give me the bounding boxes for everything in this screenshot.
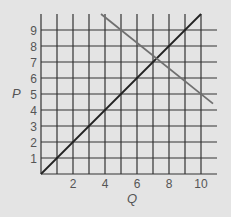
y-tick-labels: 123456789: [30, 24, 37, 166]
y-tick-label: 4: [30, 104, 37, 118]
y-tick-label: 5: [30, 88, 37, 102]
x-tick-label: 10: [194, 177, 208, 191]
x-tick-label: 8: [166, 177, 173, 191]
x-tick-label: 6: [134, 177, 141, 191]
supply-demand-chart: 123456789 246810 P Q: [0, 0, 231, 217]
grid-lines: [41, 14, 217, 174]
y-tick-label: 3: [30, 120, 37, 134]
x-tick-labels: 246810: [70, 177, 208, 191]
y-tick-label: 9: [30, 24, 37, 38]
y-tick-label: 8: [30, 40, 37, 54]
x-tick-label: 4: [102, 177, 109, 191]
y-tick-label: 2: [30, 136, 37, 150]
y-axis-label: P: [12, 86, 21, 101]
x-axis-label: Q: [127, 191, 137, 206]
y-tick-label: 6: [30, 72, 37, 86]
x-tick-label: 2: [70, 177, 77, 191]
y-tick-label: 1: [30, 152, 37, 166]
demand-line: [101, 14, 213, 104]
y-tick-label: 7: [30, 56, 37, 70]
